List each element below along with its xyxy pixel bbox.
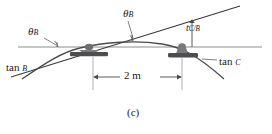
leader-theta-b-left [44,38,56,45]
figure-caption: (c) [127,107,139,118]
dimension-arrowhead-right [177,75,182,80]
support-b-base [70,52,108,56]
theta-subscript-top: B [128,10,133,19]
tan-c-text: tan [219,55,235,67]
label-span-dimension: 2 m [124,70,141,81]
support-c-base [168,53,198,57]
support-c [168,43,198,57]
angle-arc-theta-b-left [55,41,59,47]
label-theta-b-top: θB [123,8,133,19]
beam-deflection-figure: θB θB tC/B tan B tan C 2 m (c) [0,0,272,134]
support-b-pin [85,44,93,50]
t-subscript: C/B [189,25,200,33]
dimension-arrowhead-left [93,75,98,80]
label-theta-b-left: θB [28,26,38,37]
label-tan-b: tan B [6,62,27,73]
theta-subscript-left: B [33,28,38,37]
tan-b-subscript: B [22,64,27,73]
tan-b-text: tan [6,61,22,73]
label-tangential-deviation: tC/B [186,23,200,33]
support-b [70,44,108,56]
support-c-body [176,44,188,54]
label-tan-c: tan C [219,56,240,67]
leader-tan-c [202,59,217,60]
tan-c-subscript: C [235,58,240,67]
